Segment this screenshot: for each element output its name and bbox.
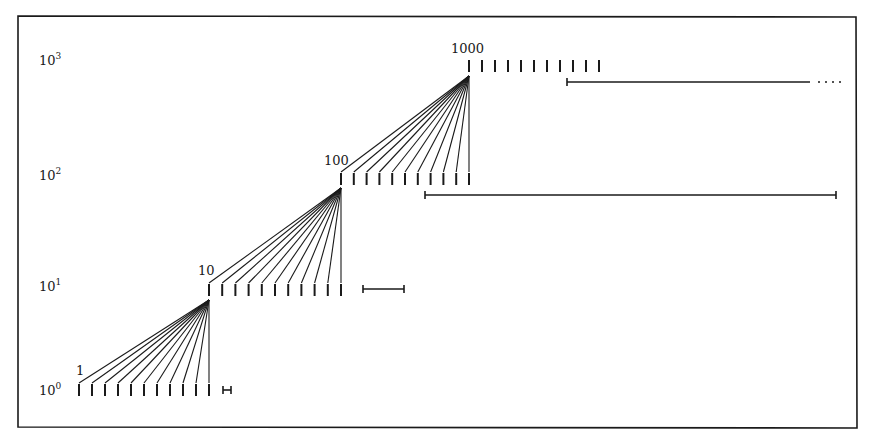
level-label-100: 100 bbox=[324, 153, 349, 168]
fan-line bbox=[379, 76, 469, 172]
fan-line bbox=[367, 76, 469, 172]
fan-line bbox=[249, 188, 341, 283]
fan-line bbox=[275, 188, 341, 283]
fan-line bbox=[418, 76, 469, 172]
axis-labels: 103 102 101 100 bbox=[39, 51, 62, 398]
fan-line bbox=[92, 300, 209, 383]
fan-line bbox=[118, 300, 209, 383]
frame bbox=[18, 16, 857, 428]
fan-line bbox=[262, 188, 341, 283]
fan-line bbox=[157, 300, 209, 383]
tick-rows bbox=[79, 60, 599, 396]
fan-line bbox=[235, 188, 341, 283]
axis-label-10-0: 100 bbox=[39, 381, 62, 398]
axis-label-10-2: 102 bbox=[39, 166, 61, 183]
fan-line bbox=[222, 188, 341, 283]
fan-line bbox=[288, 188, 341, 283]
level-labels: 1 10 100 1000 bbox=[76, 41, 484, 378]
level-label-10: 10 bbox=[198, 263, 215, 278]
fan-line bbox=[144, 300, 209, 383]
interval-bars bbox=[223, 78, 842, 394]
fan-line bbox=[392, 76, 469, 172]
log-scale-diagram: 103 102 101 100 1 10 100 1000 bbox=[0, 0, 873, 443]
level-label-1: 1 bbox=[76, 363, 84, 378]
fan-line bbox=[105, 300, 209, 383]
fan-line bbox=[354, 76, 469, 172]
fan-lines bbox=[79, 76, 469, 383]
axis-label-10-3: 103 bbox=[39, 51, 62, 68]
fan-line bbox=[131, 300, 209, 383]
level-label-1000: 1000 bbox=[451, 41, 484, 56]
axis-label-10-1: 101 bbox=[39, 277, 61, 294]
fan-line bbox=[405, 76, 469, 172]
